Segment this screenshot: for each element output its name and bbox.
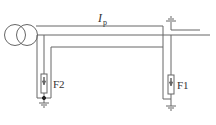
arrester-f1-label: F1 <box>177 79 189 91</box>
arrester-f2-icon <box>41 74 47 103</box>
ground-icon-top <box>166 17 176 21</box>
ground-icon-f2 <box>39 103 49 107</box>
circuit-diagram: I p F2 F1 <box>0 0 216 125</box>
current-subscript: p <box>103 18 107 27</box>
transformer-icon <box>5 25 38 46</box>
ground-icon-f1 <box>166 106 176 110</box>
arrester-f2-label: F2 <box>53 78 65 90</box>
arrester-f1-icon <box>168 75 174 106</box>
